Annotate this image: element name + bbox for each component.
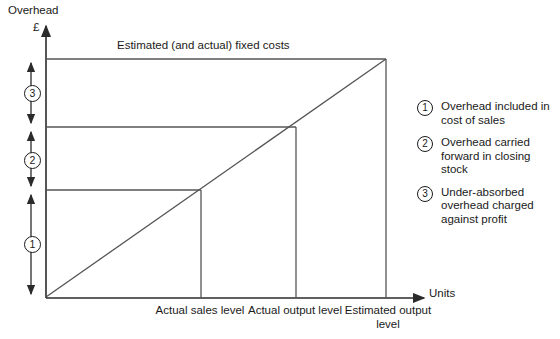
legend-item-1: 1 Overhead included in cost of sales	[417, 100, 560, 127]
legend-number-2: 2	[417, 136, 433, 152]
legend-number-1: 1	[417, 100, 433, 116]
fixed-costs-line-label: Estimated (and actual) fixed costs	[117, 38, 290, 52]
y-axis-unit-label: £	[33, 20, 39, 34]
x-label-actual-output-level: Actual output level	[245, 303, 345, 317]
legend-number-3: 3	[417, 186, 433, 202]
segment-number-2: 2	[24, 152, 41, 169]
x-label-actual-sales-level: Actual sales level	[150, 303, 250, 317]
legend-label-3: Under-absorbed overhead charged against …	[441, 186, 560, 227]
absorbed-overhead-line	[46, 59, 386, 297]
x-axis-title: Units	[429, 286, 455, 300]
legend-label-2: Overhead carried forward in closing stoc…	[441, 136, 560, 177]
legend-label-1: Overhead included in cost of sales	[441, 100, 560, 127]
legend-item-2: 2 Overhead carried forward in closing st…	[417, 136, 560, 177]
segment-number-1: 1	[24, 236, 41, 253]
legend: 1 Overhead included in cost of sales 2 O…	[417, 100, 560, 235]
diagram-canvas: 3 2 1 Overhead £ Estimated (and actual) …	[0, 0, 560, 339]
x-label-estimated-output-level: Estimated output level	[338, 303, 438, 331]
legend-item-3: 3 Under-absorbed overhead charged agains…	[417, 186, 560, 227]
segment-number-3: 3	[24, 85, 41, 102]
y-axis-title: Overhead	[8, 3, 59, 17]
